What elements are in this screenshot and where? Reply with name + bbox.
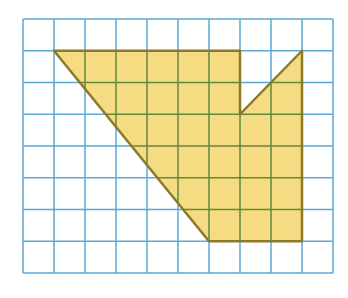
- grid-diagram: [0, 0, 348, 298]
